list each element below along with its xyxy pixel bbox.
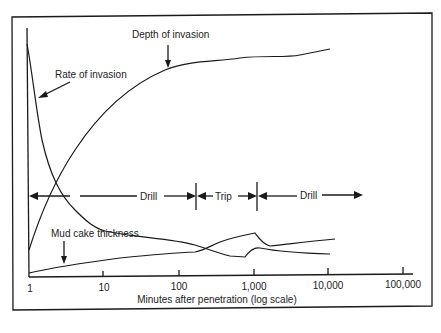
- x-tick-labels: 1 10 100 1,000 10,000 100,000: [27, 279, 421, 294]
- arrowhead-icon: [61, 256, 67, 264]
- phase-trip: Trip: [197, 191, 257, 202]
- figure-frame: [12, 13, 432, 310]
- x-axis-title: Minutes after penetration (log scale): [137, 294, 297, 305]
- svg-text:1: 1: [27, 283, 33, 294]
- svg-text:Drill: Drill: [140, 191, 157, 202]
- svg-text:100,000: 100,000: [385, 279, 422, 290]
- x-axis: [29, 274, 413, 277]
- svg-text:100: 100: [171, 281, 188, 292]
- arrowhead-icon: [165, 60, 171, 68]
- arrowhead-icon: [38, 91, 48, 98]
- svg-text:10: 10: [98, 282, 110, 293]
- phase-drill-1: Drill: [29, 191, 196, 202]
- invasion-diagram: 1 10 100 1,000 10,000 100,000 Minutes af…: [0, 0, 441, 333]
- mud-cake-thickness-curve: [29, 233, 335, 273]
- rate-arrow: [44, 82, 70, 95]
- y-axis: [27, 28, 29, 277]
- rate-of-invasion-label: Rate of invasion: [55, 69, 127, 80]
- svg-text:1,000: 1,000: [241, 281, 266, 292]
- depth-of-invasion-label: Depth of invasion: [132, 29, 209, 40]
- mud-cake-thickness-label: Mud cake thickness: [51, 228, 139, 239]
- phase-drill-2: Drill: [258, 190, 363, 201]
- svg-text:10,000: 10,000: [313, 280, 344, 291]
- svg-text:Drill: Drill: [300, 190, 317, 201]
- svg-text:Trip: Trip: [215, 191, 232, 202]
